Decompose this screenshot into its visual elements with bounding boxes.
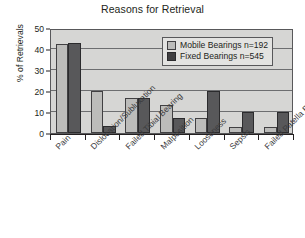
bar-chart-figure: Reasons for Retrieval % of Retrievals 01…: [0, 0, 305, 238]
y-tick-label: 30: [4, 66, 44, 76]
x-tick-mark: [189, 134, 190, 140]
bar: [68, 43, 81, 133]
legend-label-fixed-bearings: Fixed Bearings n=545: [180, 51, 264, 62]
bar: [56, 44, 69, 133]
y-tick-mark: [46, 71, 50, 72]
x-tick-mark: [258, 134, 259, 140]
y-tick-label: 0: [4, 129, 44, 139]
x-tick-mark: [50, 134, 51, 140]
bar: [91, 91, 104, 133]
y-tick-mark: [46, 50, 50, 51]
x-tick-mark: [224, 134, 225, 140]
y-tick-label: 10: [4, 108, 44, 118]
x-tick-mark: [154, 134, 155, 140]
x-tick-mark: [85, 134, 86, 140]
y-tick-label: 50: [4, 24, 44, 34]
legend-label-mobile-bearings: Mobile Bearings n=192: [180, 40, 268, 51]
chart-legend: Mobile Bearings n=192 Fixed Bearings n=5…: [162, 37, 273, 66]
y-tick-label: 40: [4, 45, 44, 55]
chart-title: Reasons for Retrieval: [0, 3, 305, 15]
y-tick-label: 20: [4, 87, 44, 97]
x-tick-label: Pain: [54, 133, 73, 152]
y-tick-mark: [46, 92, 50, 93]
legend-swatch-fixed-bearings: [167, 52, 176, 61]
legend-item: Mobile Bearings n=192: [167, 40, 268, 51]
x-tick-mark: [293, 134, 294, 140]
legend-swatch-mobile-bearings: [167, 41, 176, 50]
legend-item: Fixed Bearings n=545: [167, 51, 268, 62]
x-tick-mark: [119, 134, 120, 140]
y-tick-mark: [46, 113, 50, 114]
y-tick-mark: [46, 29, 50, 30]
